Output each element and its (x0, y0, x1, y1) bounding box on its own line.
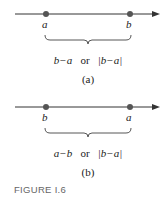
distance-expression-a: b−a or |b−a| (54, 54, 123, 66)
point-dot (43, 11, 49, 17)
expr1: b−a (54, 54, 72, 66)
figure-label: FIGURE I.6 (14, 184, 66, 195)
or-text: or (80, 54, 89, 66)
expr1: a−b (54, 147, 72, 159)
brace (45, 128, 131, 137)
expr2: |b−a| (98, 54, 122, 66)
arrow-icon (152, 11, 160, 17)
point-dot (43, 104, 49, 110)
point-dot (127, 104, 133, 110)
brace (45, 35, 131, 44)
point-label-right-a: b (126, 18, 132, 30)
point-label-left-a: a (42, 18, 48, 30)
or-text: or (80, 147, 89, 159)
distance-expression-b: a−b or |b−a| (54, 147, 123, 159)
arrow-icon (152, 104, 160, 110)
expr2: |b−a| (98, 147, 122, 159)
number-line-a (15, 11, 160, 44)
point-label-right-b: a (126, 111, 132, 123)
caption-b: (b) (82, 166, 95, 178)
point-dot (127, 11, 133, 17)
caption-a: (a) (82, 73, 94, 85)
point-label-left-b: b (42, 111, 48, 123)
number-line-b (15, 104, 160, 137)
